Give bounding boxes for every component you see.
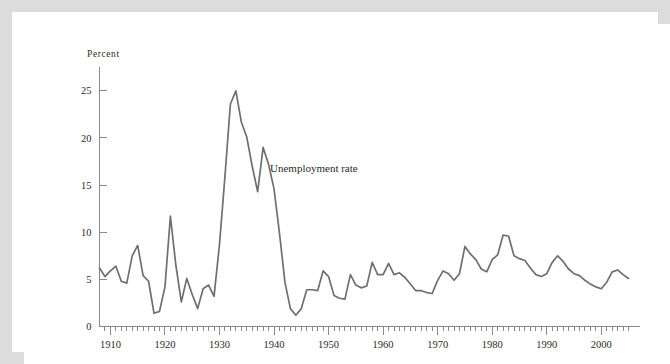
- figure-plot-area: Percent 0510152025 191019201930194019501…: [24, 24, 670, 364]
- y-axis-ticks: 0510152025: [81, 85, 107, 332]
- y-tick-label: 20: [81, 133, 92, 144]
- figure-frame: Percent 0510152025 191019201930194019501…: [0, 0, 670, 364]
- y-tick-label: 5: [86, 274, 91, 285]
- x-tick-label: 1920: [154, 339, 175, 350]
- x-tick-label: 1960: [373, 339, 394, 350]
- series-annotation-label: Unemployment rate: [270, 162, 358, 174]
- x-tick-label: 1990: [536, 339, 557, 350]
- x-tick-label: 1930: [209, 339, 230, 350]
- y-axis-title: Percent: [87, 49, 120, 59]
- y-tick-label: 15: [81, 180, 92, 191]
- x-tick-label: 2000: [591, 339, 612, 350]
- axis-lines: [100, 67, 641, 327]
- y-tick-label: 0: [86, 321, 91, 332]
- x-tick-label: 1980: [482, 339, 503, 350]
- x-tick-label: 1910: [100, 339, 121, 350]
- x-tick-label: 1970: [427, 339, 448, 350]
- y-tick-label: 25: [81, 85, 92, 96]
- x-tick-label: 1950: [318, 339, 339, 350]
- unemployment-rate-line-chart: Percent 0510152025 191019201930194019501…: [24, 24, 670, 364]
- unemployment-rate-line: [100, 91, 629, 315]
- x-axis-minor-ticks: [105, 327, 629, 331]
- y-tick-label: 10: [81, 227, 92, 238]
- x-tick-label: 1940: [264, 339, 285, 350]
